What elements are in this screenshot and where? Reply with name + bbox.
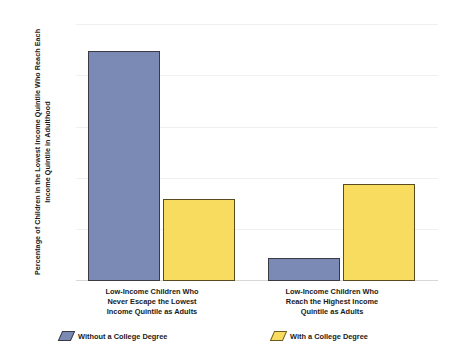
- x-category-label-1: Low-Income Children Who Never Escape the…: [72, 287, 232, 316]
- x-category-label-2-line-3: Quintile as Adults: [252, 307, 412, 317]
- legend-swatch-icon-with-degree: [270, 331, 287, 341]
- bar-chart: Percentage of Children in the Lowest Inc…: [0, 0, 461, 361]
- x-category-label-2-line-1: Low-Income Children Who: [252, 287, 412, 297]
- chart-legend: Without a College Degree With a College …: [0, 329, 461, 349]
- x-category-label-1-line-1: Low-Income Children Who: [72, 287, 232, 297]
- x-category-label-1-line-2: Never Escape the Lowest: [72, 297, 232, 307]
- gridline-50: [76, 24, 438, 25]
- legend-label-without-degree: Without a College Degree: [78, 332, 167, 341]
- bar-group2-without-degree: [268, 258, 340, 281]
- x-category-label-1-line-3: Income Quintile as Adults: [72, 307, 232, 317]
- bar-group2-with-degree: [343, 184, 415, 281]
- legend-item-without-degree[interactable]: Without a College Degree: [60, 331, 167, 341]
- bar-group1-with-degree: [163, 199, 235, 281]
- x-category-label-2: Low-Income Children Who Reach the Highes…: [252, 287, 412, 316]
- x-category-label-2-line-2: Reach the Highest Income: [252, 297, 412, 307]
- legend-item-with-degree[interactable]: With a College Degree: [272, 331, 368, 341]
- legend-swatch-icon-without-degree: [58, 331, 75, 341]
- y-axis-title: Percentage of Children in the Lowest Inc…: [33, 21, 53, 283]
- legend-label-with-degree: With a College Degree: [290, 332, 368, 341]
- plot-area: [76, 24, 438, 281]
- bar-group1-without-degree: [88, 51, 160, 281]
